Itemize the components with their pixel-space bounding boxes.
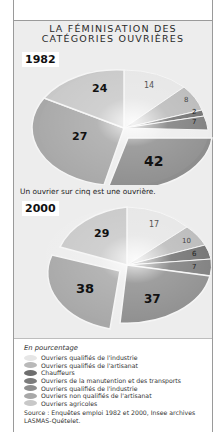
legend-swatch <box>24 362 37 368</box>
value-label: 27 <box>72 130 87 143</box>
legend-swatch <box>24 355 37 361</box>
value-label: 38 <box>76 281 94 296</box>
legend-item: Ouvriers non qualifiés de l'artisanat <box>24 392 181 400</box>
legend-item: Ouvriers agricoles <box>24 400 181 408</box>
legend-swatch <box>24 393 37 399</box>
legend-list: Ouvriers qualifiés de l'industrie Ouvrie… <box>24 354 181 407</box>
value-label: 14 <box>144 81 154 90</box>
value-label: 8 <box>184 96 188 104</box>
source-note: Source : Enquêtes emploi 1982 et 2000, I… <box>24 409 209 424</box>
legend-swatch <box>24 385 37 391</box>
value-label: 6 <box>192 250 197 258</box>
pie-chart-2000: 17 10 6 7 37 38 29 <box>24 205 214 337</box>
value-label: 29 <box>94 227 109 240</box>
value-label: 10 <box>182 237 191 245</box>
legend-label: Ouvriers non qualifiés de l'artisanat <box>41 392 152 399</box>
legend-swatch <box>24 378 37 384</box>
chart-title: LA FÉMINISATION DES CATÉGORIES OUVRIÈRES <box>14 24 212 44</box>
value-label: 7 <box>192 118 196 126</box>
title-line-2: CATÉGORIES OUVRIÈRES <box>14 34 212 44</box>
infographic-panel: LA FÉMINISATION DES CATÉGORIES OUVRIÈRES… <box>13 0 213 432</box>
value-label: 2 <box>192 108 196 116</box>
legend-swatch <box>24 400 37 406</box>
legend-item: Ouvriers qualifiés de l'industrie <box>24 384 181 392</box>
chart-caption: Un ouvrier sur cinq est une ouvrière. <box>20 187 156 196</box>
pie-chart-1982: 14 8 2 7 42 27 24 <box>24 60 214 185</box>
legend-label: Ouvriers agricoles <box>41 400 97 407</box>
top-margin <box>14 0 212 21</box>
value-label: 7 <box>192 263 196 271</box>
value-label: 24 <box>92 82 108 95</box>
legend-item: Ouvriers qualifiés de l'artisanat <box>24 362 181 370</box>
value-label: 42 <box>144 153 163 169</box>
value-label: 37 <box>144 292 161 306</box>
legend-item: Ouvriers qualifiés de l'industrie <box>24 354 181 362</box>
value-label: 17 <box>149 220 159 229</box>
legend-label: Ouvriers qualifiés de l'artisanat <box>41 362 138 369</box>
legend-label: Chauffeurs <box>41 369 75 376</box>
legend-swatch <box>24 370 37 376</box>
legend-item: Ouvriers de la manutention et des transp… <box>24 377 181 385</box>
legend-label: Ouvriers de la manutention et des transp… <box>41 377 181 384</box>
legend-item: Chauffeurs <box>24 369 181 377</box>
legend-label: Ouvriers qualifiés de l'industrie <box>41 354 138 361</box>
chart-legend: En pourcentage Ouvriers qualifiés de l'i… <box>14 338 212 432</box>
legend-label: Ouvriers qualifiés de l'industrie <box>41 385 138 392</box>
legend-heading: En pourcentage <box>24 344 78 352</box>
